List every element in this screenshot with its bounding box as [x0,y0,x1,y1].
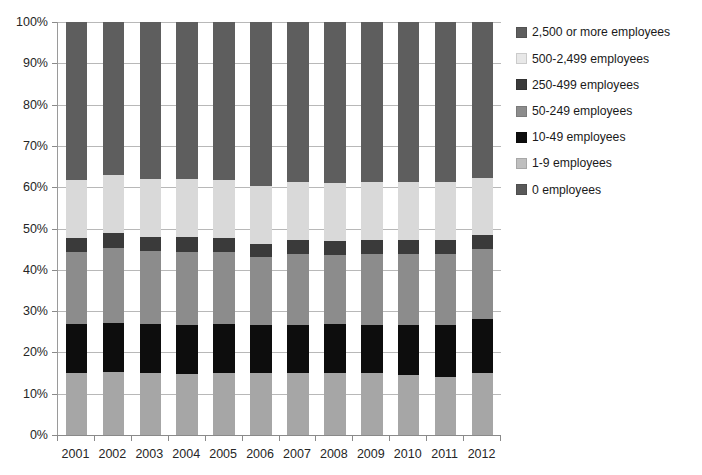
bar-segment[interactable] [472,235,494,249]
bar-segment[interactable] [361,22,383,182]
bar-segment[interactable] [176,22,198,179]
bar-segment[interactable] [361,182,383,240]
bar-segment[interactable] [140,22,162,179]
bar-segment[interactable] [324,373,346,435]
bar-segment[interactable] [287,22,309,182]
bar-column[interactable] [103,22,125,435]
bar-column[interactable] [324,22,346,435]
bar-segment[interactable] [435,325,457,377]
bar-segment[interactable] [287,325,309,374]
bar-segment[interactable] [103,233,125,248]
bar-segment[interactable] [324,324,346,373]
bar-segment[interactable] [324,183,346,241]
legend-item[interactable]: 10-49 employees [516,131,698,144]
x-axis-tick-mark [500,435,501,441]
bar-segment[interactable] [103,248,125,322]
legend-item[interactable]: 2,500 or more employees [516,26,698,39]
bar-column[interactable] [176,22,198,435]
bar-segment[interactable] [103,323,125,373]
bar-segment[interactable] [250,373,272,435]
bar-segment[interactable] [176,374,198,435]
bar-segment[interactable] [250,244,272,257]
bar-segment[interactable] [176,252,198,325]
bar-segment[interactable] [472,249,494,319]
legend-item[interactable]: 500-2,499 employees [516,52,698,65]
bar-column[interactable] [213,22,235,435]
legend-item[interactable]: 250-499 employees [516,78,698,91]
bar-segment[interactable] [213,22,235,180]
bar-segment[interactable] [213,324,235,374]
bar-column[interactable] [361,22,383,435]
bar-segment[interactable] [287,254,309,325]
bar-segment[interactable] [213,252,235,324]
x-axis-tick-mark [463,435,464,441]
bar-segment[interactable] [103,22,125,175]
bar-segment[interactable] [140,237,162,251]
bar-segment[interactable] [435,182,457,241]
bar-segment[interactable] [176,237,198,252]
bar-segment[interactable] [398,240,420,254]
bar-segment[interactable] [287,182,309,240]
bar-segment[interactable] [361,240,383,254]
legend-item[interactable]: 50-249 employees [516,105,698,118]
legend-item[interactable]: 0 employees [516,183,698,196]
x-axis-tick-label: 2007 [283,447,311,461]
bar-segment[interactable] [324,22,346,183]
bar-column[interactable] [66,22,88,435]
bar-segment[interactable] [66,252,88,323]
bar-segment[interactable] [213,180,235,238]
x-axis-tick-mark [389,435,390,441]
bar-segment[interactable] [213,238,235,252]
y-axis-tick-label: 20% [2,345,48,359]
bar-segment[interactable] [176,325,198,374]
y-axis-tick-label: 10% [2,387,48,401]
bar-column[interactable] [472,22,494,435]
bar-segment[interactable] [250,186,272,244]
bar-segment[interactable] [103,372,125,435]
x-axis-tick-label: 2002 [98,447,126,461]
bar-segment[interactable] [250,325,272,372]
bar-column[interactable] [250,22,272,435]
bar-segment[interactable] [287,373,309,435]
bar-segment[interactable] [176,179,198,237]
bar-segment[interactable] [435,377,457,435]
bar-segment[interactable] [361,373,383,435]
bar-segment[interactable] [472,319,494,373]
bar-segment[interactable] [250,257,272,326]
bar-segment[interactable] [361,254,383,325]
bar-column[interactable] [287,22,309,435]
bar-segment[interactable] [435,22,457,182]
bar-segment[interactable] [398,22,420,182]
bar-column[interactable] [140,22,162,435]
bar-segment[interactable] [140,251,162,324]
bar-segment[interactable] [140,179,162,237]
bar-segment[interactable] [324,255,346,324]
bar-segment[interactable] [287,240,309,254]
bar-segment[interactable] [66,22,88,180]
bar-segment[interactable] [435,240,457,254]
bar-segment[interactable] [472,373,494,435]
bar-segment[interactable] [213,373,235,435]
bar-segment[interactable] [66,238,88,252]
bar-segment[interactable] [472,178,494,235]
bar-column[interactable] [398,22,420,435]
legend-item[interactable]: 1-9 employees [516,157,698,170]
x-axis-tick-label: 2004 [172,447,200,461]
bar-segment[interactable] [250,22,272,186]
bar-column[interactable] [435,22,457,435]
bar-segment[interactable] [398,182,420,240]
bar-segment[interactable] [398,254,420,325]
bar-segment[interactable] [398,325,420,375]
bar-segment[interactable] [361,325,383,374]
bar-segment[interactable] [472,22,494,178]
bar-segment[interactable] [324,241,346,255]
bar-segment[interactable] [140,373,162,435]
bar-segment[interactable] [398,375,420,435]
bar-segment[interactable] [103,175,125,234]
bar-segment[interactable] [66,373,88,435]
bar-segment[interactable] [435,254,457,325]
bar-segment[interactable] [66,180,88,238]
bar-segment[interactable] [140,324,162,374]
bar-segment[interactable] [66,324,88,374]
x-axis-tick-label: 2010 [394,447,422,461]
